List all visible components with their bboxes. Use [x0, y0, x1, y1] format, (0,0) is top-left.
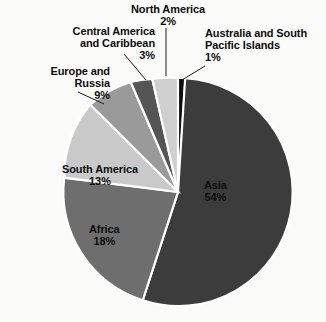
slice-label-europe-line2: Russia — [10, 78, 110, 90]
slice-label-south-america-percent: 13% — [62, 176, 138, 188]
slice-label-africa-percent: 18% — [89, 236, 120, 248]
slice-label-europe-percent: 9% — [10, 90, 110, 102]
slice-label-central-america: Central America and Caribbean 3% — [35, 26, 155, 62]
slice-label-asia-percent: 54% — [204, 192, 227, 204]
slice-label-australia: Australia and South Pacific Islands 1% — [205, 28, 307, 64]
slice-label-south-america: South America 13% — [62, 164, 138, 188]
slice-label-australia-percent: 1% — [205, 52, 307, 64]
slice-label-australia-line2: Pacific Islands — [205, 40, 307, 52]
slice-label-central-america-line2: and Caribbean — [35, 38, 155, 50]
slice-label-africa: Africa 18% — [89, 224, 120, 248]
pie-chart: North America 2% Australia and South Pac… — [0, 0, 326, 322]
slice-label-europe: Europe and Russia 9% — [10, 66, 110, 102]
slice-label-asia: Asia 54% — [204, 180, 227, 204]
pie-slices — [63, 78, 292, 306]
slice-label-central-america-percent: 3% — [35, 50, 155, 62]
